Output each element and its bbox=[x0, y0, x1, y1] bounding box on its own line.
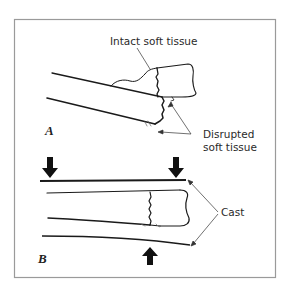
arrow-down-right-icon bbox=[168, 157, 184, 178]
cast-label: Cast bbox=[221, 206, 244, 218]
panel-a-letter: A bbox=[45, 123, 54, 139]
fracture-diagram: Intact soft tissue Disrupted soft tissue… bbox=[0, 0, 287, 290]
panel-b-letter: B bbox=[38, 251, 47, 267]
panel-a-bone bbox=[47, 64, 196, 126]
upper-cast-line bbox=[40, 180, 186, 181]
arrow-up-icon bbox=[142, 247, 158, 265]
intact-soft-tissue-label: Intact soft tissue bbox=[110, 35, 197, 47]
disrupted-label-line1: Disrupted bbox=[203, 128, 254, 140]
panel-b-bone bbox=[47, 190, 189, 227]
arrow-down-left-icon bbox=[42, 157, 58, 178]
lower-cast-line bbox=[42, 236, 190, 245]
disrupted-label-line2: soft tissue bbox=[203, 141, 257, 153]
cast-leaders bbox=[188, 180, 218, 246]
pressure-arrows bbox=[42, 157, 184, 265]
